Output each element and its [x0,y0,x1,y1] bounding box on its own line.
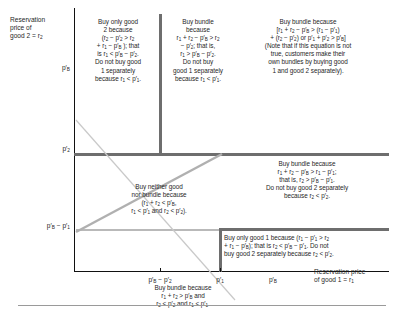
region-buy-neither: Buy neither goodnor bundle because(r1 + … [98,183,220,215]
y-tick-label-pb-minus-p1: p′B − p′1 [18,222,70,230]
bundling-reservation-price-diagram: Reservationprice ofgood 2 = r2 Reservati… [0,0,395,336]
x-tick-mark-p1 [220,268,221,272]
x-tick-label-pb: p′B [258,276,288,284]
y-tick-label-p2: p′2 [38,145,70,153]
y-tick-label-pb: p′B [38,64,70,72]
x-tick-label-p1: p′1 [205,276,235,284]
region-buy-bundle-top-right: Buy bundle because[r1 + r2 − p′B > (r1 −… [226,18,390,75]
region-buy-only-good-2: Buy only good2 because(r2 − p′2 > r2+ r1… [76,18,160,83]
x-tick-label-pb-minus-p2: p′B − p′2 [131,276,189,284]
y-axis-title: Reservationprice ofgood 2 = r2 [10,16,72,41]
region-buy-bundle-right: Buy bundle becauser1 + r2 − p′B > r1 − p… [224,160,390,200]
region-buy-only-good-1: Buy only good 1 because (r1 − p′1 > r2+ … [224,234,392,258]
x-axis-title: Reservation priceof good 1 = r1 [314,268,392,284]
region-buy-bundle-left: Buy bundlebecauser1 + r2 − p′B > r2− p′2… [162,18,234,83]
caption-divider [18,305,386,306]
x-tick-mark-pbp2 [160,268,161,272]
